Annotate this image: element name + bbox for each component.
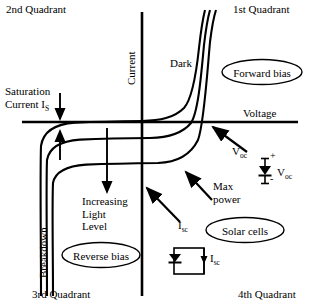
max-power-line2: power: [213, 193, 241, 206]
max-power-line1: Max: [213, 180, 241, 193]
voc-symbol-subscript: oc: [285, 172, 292, 181]
saturation-current-line1: Saturation: [5, 85, 50, 98]
voc-symbol-label: Voc: [277, 166, 292, 182]
isc-pointer: [147, 188, 180, 222]
saturation-current-line2: Current IS: [5, 98, 50, 114]
quadrant-label-3: 3rd Quadrant: [32, 288, 90, 300]
increasing-light-label: Increasing Light Level: [82, 195, 128, 233]
voc-symbol-plus: +: [270, 150, 276, 161]
quadrant-label-1: 1st Quadrant: [233, 3, 290, 15]
max-power-label: Max power: [213, 180, 241, 205]
isc-symbol-subscript: sc: [214, 258, 220, 267]
increasing-light-line2: Light: [82, 208, 128, 221]
figure-canvas: 2nd Quadrant 1st Quadrant 3rd Quadrant 4…: [0, 0, 309, 306]
increasing-light-line1: Increasing: [82, 195, 128, 208]
breakdown-label: Breakdown: [37, 227, 49, 278]
isc-curve-label: Isc: [178, 219, 188, 235]
reverse-bias-callout: Reverse bias: [62, 243, 140, 268]
increasing-light-line3: Level: [82, 220, 128, 233]
quadrant-label-4: 4th Quadrant: [238, 288, 296, 300]
solar-cells-callout: Solar cells: [206, 218, 284, 243]
voc-symbol-minus: -: [270, 173, 273, 184]
x-axis-label: Voltage: [243, 107, 276, 119]
voc-curve-label: Voc: [232, 145, 247, 161]
isc-circuit-symbol: [169, 248, 208, 274]
dark-curve-label: Dark: [170, 57, 192, 69]
is-subscript: S: [45, 104, 49, 113]
voc-subscript: oc: [240, 151, 247, 160]
saturation-current-label: Saturation Current IS: [5, 85, 50, 113]
isc-symbol-label: Isc: [210, 252, 220, 268]
forward-bias-callout: Forward bias: [222, 60, 302, 85]
max-power-pointer: [186, 172, 212, 200]
isc-subscript: sc: [182, 225, 188, 234]
y-axis-label: Current: [125, 51, 137, 85]
quadrant-label-2: 2nd Quadrant: [6, 3, 66, 15]
